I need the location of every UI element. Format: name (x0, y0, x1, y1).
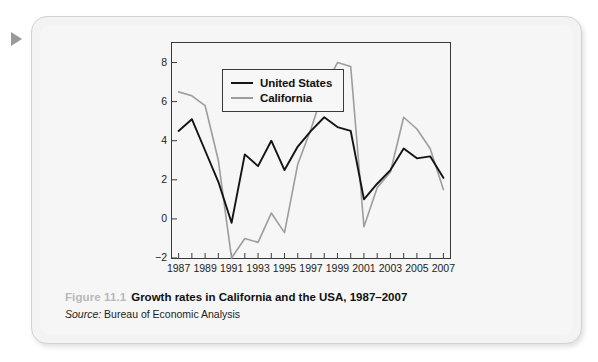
figure-number-label: Figure 11.1 (65, 291, 126, 303)
y-tick-label: 0 (161, 212, 167, 224)
caption-title-line: Figure 11.1Growth rates in California an… (65, 290, 553, 305)
x-tick-label: 2007 (421, 262, 465, 274)
y-tick-label: 6 (161, 95, 167, 107)
legend-label-california: California (260, 92, 312, 104)
y-tick-label: 2 (161, 173, 167, 185)
figure-panel: −202468 19871989199119931995199719992001… (31, 16, 582, 344)
legend-swatch-united-states (231, 82, 253, 84)
source-value: Bureau of Economic Analysis (104, 308, 240, 320)
series-line-united-states (179, 117, 444, 223)
figure-panel-inner: −202468 19871989199119931995199719992001… (40, 25, 573, 335)
caption-source-line: Source: Bureau of Economic Analysis (65, 307, 553, 322)
y-tick-label: 8 (161, 56, 167, 68)
figure-caption: Figure 11.1Growth rates in California an… (65, 290, 553, 322)
legend-swatch-california (231, 97, 253, 99)
source-label: Source: (65, 308, 101, 320)
legend-item-united-states: United States (231, 75, 332, 90)
y-axis-ticks (172, 63, 177, 258)
legend-item-california: California (231, 90, 332, 105)
pointer-triangle-icon (11, 32, 22, 46)
legend-label-united-states: United States (260, 77, 332, 89)
chart-legend: United States California (222, 69, 344, 112)
y-tick-label: 4 (161, 134, 167, 146)
caption-title-text: Growth rates in California and the USA, … (131, 291, 407, 303)
x-axis-ticks (179, 253, 444, 258)
